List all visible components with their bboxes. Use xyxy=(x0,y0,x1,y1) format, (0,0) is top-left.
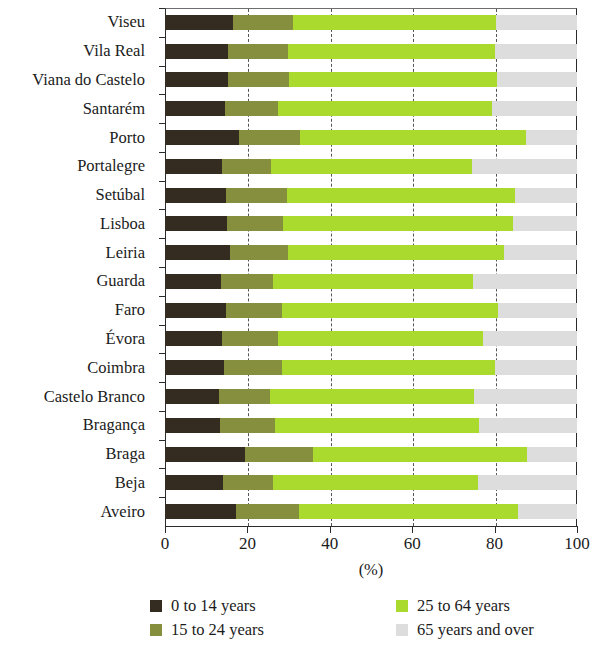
bar-segment xyxy=(165,72,228,87)
x-axis-tick xyxy=(247,526,248,533)
x-axis-tick-label: 20 xyxy=(217,534,277,554)
stacked-bar xyxy=(165,331,577,346)
x-axis-title: (%) xyxy=(165,560,577,580)
bar-row xyxy=(165,497,577,526)
bar-segment xyxy=(278,101,491,116)
legend-item[interactable]: 0 to 14 years xyxy=(150,596,256,616)
y-axis-category-label: Beja xyxy=(0,474,145,492)
stacked-bar xyxy=(165,360,577,375)
bar-segment xyxy=(313,447,526,462)
bar-segment xyxy=(495,44,577,59)
stacked-bar xyxy=(165,159,577,174)
stacked-bar xyxy=(165,130,577,145)
y-axis-category-label: Coimbra xyxy=(0,359,145,377)
stacked-bar xyxy=(165,418,577,433)
bar-row xyxy=(165,353,577,382)
stacked-bar xyxy=(165,274,577,289)
bar-segment xyxy=(165,418,220,433)
bar-segment xyxy=(492,101,577,116)
bar-segment xyxy=(165,245,230,260)
bar-segment xyxy=(165,303,226,318)
legend-item[interactable]: 15 to 24 years xyxy=(150,620,264,640)
bar-segment xyxy=(165,475,223,490)
bar-segment xyxy=(273,274,473,289)
bar-segment xyxy=(165,389,219,404)
bar-segment xyxy=(230,245,288,260)
bar-segment xyxy=(273,475,478,490)
bar-row xyxy=(165,123,577,152)
stacked-bar xyxy=(165,389,577,404)
bar-segment xyxy=(278,331,483,346)
y-axis-labels: ViseuVila RealViana do CasteloSantarémPo… xyxy=(0,8,157,526)
bar-segment xyxy=(223,475,273,490)
x-axis-tick xyxy=(577,526,578,533)
bar-segment xyxy=(497,72,577,87)
bar-segment xyxy=(220,418,275,433)
bar-segment xyxy=(165,159,222,174)
y-axis-category-label: Braga xyxy=(0,445,145,463)
bar-segment xyxy=(165,360,224,375)
y-axis-category-label: Vila Real xyxy=(0,42,145,60)
legend-swatch-icon xyxy=(396,624,408,636)
bar-row xyxy=(165,152,577,181)
bar-row xyxy=(165,267,577,296)
y-axis-category-label: Lisboa xyxy=(0,215,145,233)
y-axis-category-label: Faro xyxy=(0,301,145,319)
stacked-bar xyxy=(165,15,577,30)
legend-label: 25 to 64 years xyxy=(417,596,510,616)
bar-segment xyxy=(282,360,495,375)
x-axis-tick-label: 80 xyxy=(465,534,525,554)
bar-row xyxy=(165,238,577,267)
bar-row xyxy=(165,411,577,440)
bar-segment xyxy=(288,44,495,59)
bar-row xyxy=(165,468,577,497)
legend-label: 65 years and over xyxy=(417,620,534,640)
bar-segment xyxy=(245,447,313,462)
x-axis-tick xyxy=(495,526,496,533)
bar-segment xyxy=(293,15,496,30)
legend-item[interactable]: 25 to 64 years xyxy=(396,596,510,616)
legend-swatch-icon xyxy=(150,624,162,636)
bar-row xyxy=(165,440,577,469)
bar-row xyxy=(165,296,577,325)
stacked-bar xyxy=(165,44,577,59)
bar-segment xyxy=(219,389,270,404)
bar-segment xyxy=(282,303,499,318)
bar-segment xyxy=(288,245,504,260)
bar-segment xyxy=(472,159,577,174)
bar-rows xyxy=(165,8,577,526)
bar-segment xyxy=(518,504,577,519)
bar-segment xyxy=(165,216,227,231)
bar-segment xyxy=(478,475,577,490)
legend-swatch-icon xyxy=(150,600,162,612)
bar-segment xyxy=(165,130,239,145)
bar-segment xyxy=(474,389,577,404)
bar-row xyxy=(165,181,577,210)
x-axis-tick-label: 0 xyxy=(135,534,195,554)
bar-row xyxy=(165,66,577,95)
chart-legend: 0 to 14 years15 to 24 years25 to 64 year… xyxy=(150,596,580,644)
bar-segment xyxy=(233,15,294,30)
bar-segment xyxy=(527,447,577,462)
stacked-bar xyxy=(165,475,577,490)
x-axis-tick-label: 40 xyxy=(300,534,360,554)
y-axis-category-label: Viana do Castelo xyxy=(0,71,145,89)
bar-segment xyxy=(221,274,274,289)
y-axis-category-label: Évora xyxy=(0,330,145,348)
bar-row xyxy=(165,8,577,37)
stacked-bar xyxy=(165,101,577,116)
bar-row xyxy=(165,37,577,66)
bar-segment xyxy=(513,216,577,231)
x-axis-tick xyxy=(330,526,331,533)
bar-segment xyxy=(287,188,515,203)
x-axis-line xyxy=(165,526,577,527)
bar-segment xyxy=(222,159,271,174)
bar-segment xyxy=(165,331,222,346)
bar-segment xyxy=(228,72,289,87)
bar-segment xyxy=(473,274,577,289)
y-axis-category-label: Guarda xyxy=(0,272,145,290)
legend-label: 0 to 14 years xyxy=(171,596,256,616)
bar-segment xyxy=(270,389,474,404)
bar-segment xyxy=(289,72,496,87)
legend-item[interactable]: 65 years and over xyxy=(396,620,534,640)
